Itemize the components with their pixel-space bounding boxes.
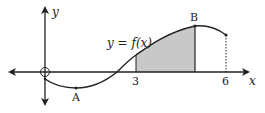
label-A: A xyxy=(71,91,81,104)
point-start xyxy=(44,78,47,81)
x-axis-label: x xyxy=(249,74,256,88)
graph: y x y = f(x) A B 3 6 xyxy=(0,0,265,113)
label-B: B xyxy=(190,11,198,24)
point-end xyxy=(225,34,228,37)
point-B xyxy=(194,25,197,28)
tick-label-3: 3 xyxy=(132,75,139,88)
curve-label: y = f(x) xyxy=(106,36,152,50)
y-axis-label: y xyxy=(51,5,59,19)
tick-label-6: 6 xyxy=(222,75,229,88)
point-A xyxy=(75,87,78,90)
